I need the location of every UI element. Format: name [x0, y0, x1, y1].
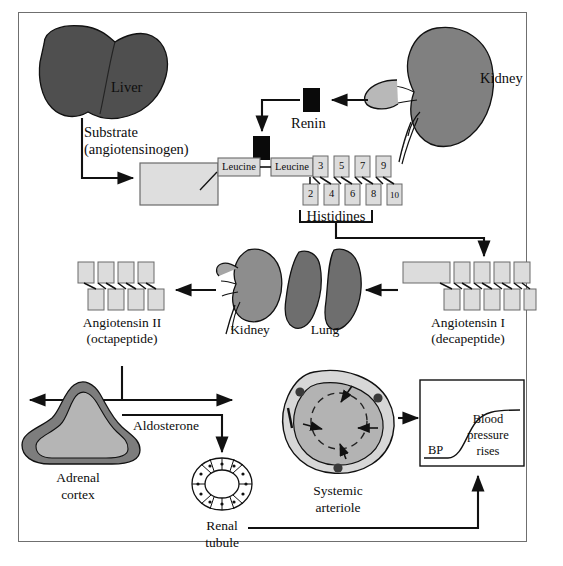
angiotensin-i-label-line2: (decapeptide): [431, 331, 504, 346]
renin-label: Renin: [291, 115, 326, 131]
aldosterone-label: Aldosterone: [133, 418, 199, 433]
figure-border: [18, 12, 527, 542]
leucine-box-1-label: Leucine: [222, 161, 256, 173]
adrenal-label-line2: cortex: [61, 487, 95, 502]
arteriole-label-line1: Systemic: [313, 483, 363, 498]
figure-canvas: Liver Substrate (angiotensinogen) Renin …: [0, 0, 563, 566]
adrenal-label-line1: Adrenal: [56, 470, 99, 485]
liver-label: Liver: [111, 79, 142, 95]
residue-top-2: 5: [334, 160, 349, 172]
bp-axis-label: BP: [428, 443, 443, 457]
residue-bottom-1: 2: [303, 188, 318, 200]
angiotensin-ii-label-line2: (octapeptide): [86, 331, 157, 346]
bp-annotation-line3: rises: [477, 444, 500, 458]
angiotensin-i-label-line1: Angiotensin I: [431, 315, 505, 330]
kidney-top-label: Kidney: [480, 70, 523, 86]
kidney-mid-label: Kidney: [230, 322, 270, 337]
residue-top-3: 7: [355, 160, 370, 172]
renal-tubule-label-line2: tubule: [205, 535, 239, 550]
residue-bottom-3: 6: [345, 188, 360, 200]
renal-tubule-label-line1: Renal: [206, 518, 238, 533]
bp-annotation-line2: pressure: [467, 428, 509, 442]
residue-bottom-4: 8: [366, 188, 381, 200]
angiotensin-ii-label-line1: Angiotensin II: [83, 315, 161, 330]
residue-top-1: 3: [313, 160, 328, 172]
leucine-box-2-label: Leucine: [275, 161, 309, 173]
arteriole-label-line2: arteriole: [316, 500, 361, 515]
bp-annotation-line1: Blood: [473, 412, 504, 426]
substrate-label-line2: (angiotensinogen): [84, 141, 189, 157]
residue-bottom-5: 10: [387, 190, 402, 200]
lung-label: Lung: [311, 322, 340, 337]
residue-bottom-2: 4: [324, 188, 339, 200]
histidines-label: Histidines: [307, 208, 366, 224]
substrate-label-line1: Substrate: [84, 124, 138, 140]
residue-top-4: 9: [376, 160, 391, 172]
